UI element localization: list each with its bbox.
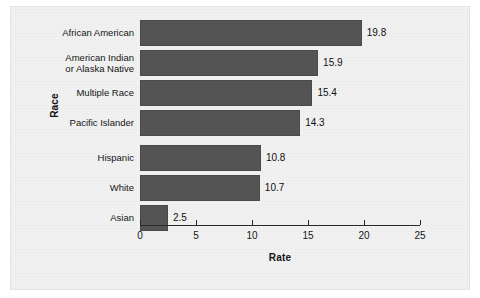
x-tick-label: 10 bbox=[237, 230, 267, 241]
x-tick bbox=[420, 220, 421, 225]
x-tick bbox=[140, 220, 141, 225]
bar-row: American Indian or Alaska Native15.9 bbox=[0, 50, 480, 76]
x-tick bbox=[252, 220, 253, 225]
bar-row: Asian2.5 bbox=[0, 205, 480, 231]
bar bbox=[140, 175, 260, 201]
bar-row: Pacific Islander14.3 bbox=[0, 110, 480, 136]
plot-area: Race African American19.8American Indian… bbox=[0, 0, 480, 298]
x-tick bbox=[308, 220, 309, 225]
x-axis-title: Rate bbox=[140, 252, 420, 263]
bar bbox=[140, 20, 362, 46]
x-tick-label: 20 bbox=[349, 230, 379, 241]
category-label: Multiple Race bbox=[34, 80, 134, 106]
figure: Race African American19.8American Indian… bbox=[0, 0, 480, 298]
x-tick-label: 5 bbox=[181, 230, 211, 241]
x-tick-label: 25 bbox=[405, 230, 435, 241]
category-label: Asian bbox=[34, 205, 134, 231]
bar-row: White10.7 bbox=[0, 175, 480, 201]
x-tick bbox=[196, 220, 197, 225]
category-label: White bbox=[34, 175, 134, 201]
x-tick-label: 15 bbox=[293, 230, 323, 241]
bar-value-label: 14.3 bbox=[305, 110, 324, 136]
bar bbox=[140, 145, 261, 171]
x-tick bbox=[364, 220, 365, 225]
bar bbox=[140, 50, 318, 76]
bar bbox=[140, 80, 312, 106]
bar-value-label: 2.5 bbox=[173, 205, 187, 231]
bar-value-label: 19.8 bbox=[367, 20, 386, 46]
category-label: Hispanic bbox=[34, 145, 134, 171]
category-label: American Indian or Alaska Native bbox=[34, 50, 134, 74]
bar-value-label: 10.8 bbox=[266, 145, 285, 171]
bar bbox=[140, 110, 300, 136]
bar bbox=[140, 205, 168, 231]
bar-value-label: 10.7 bbox=[265, 175, 284, 201]
bar-row: Multiple Race15.4 bbox=[0, 80, 480, 106]
bar-row: Hispanic10.8 bbox=[0, 145, 480, 171]
bar-value-label: 15.4 bbox=[317, 80, 336, 106]
x-axis-line bbox=[140, 225, 420, 226]
x-tick-label: 0 bbox=[125, 230, 155, 241]
bar-row: African American19.8 bbox=[0, 20, 480, 46]
category-label: Pacific Islander bbox=[34, 110, 134, 136]
bar-value-label: 15.9 bbox=[323, 50, 342, 76]
category-label: African American bbox=[34, 20, 134, 46]
